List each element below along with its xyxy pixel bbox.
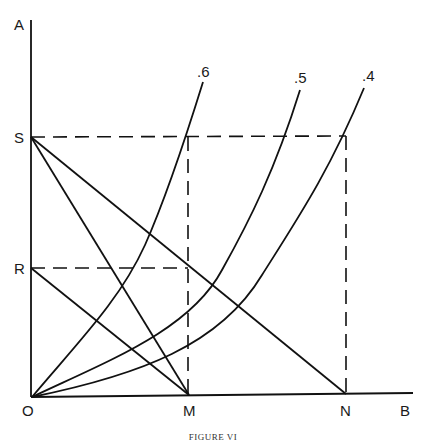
point-label-r: R (14, 260, 25, 277)
point-label-m: M (183, 402, 196, 419)
point-label-n: N (340, 402, 351, 419)
line-r-m (31, 268, 189, 395)
origin-label-o: O (22, 402, 34, 419)
figure-diagram: A S R O M N B .6 .5 .4 FIGURE VI (0, 0, 426, 448)
curve-4 (32, 88, 364, 397)
figure-caption: FIGURE VI (189, 432, 238, 442)
axis-label-b: B (400, 402, 410, 419)
line-s-n (31, 137, 346, 394)
curve-label-5: .5 (294, 69, 307, 86)
dashed-line-s (31, 136, 346, 137)
curve-label-6: .6 (197, 63, 210, 80)
x-axis (31, 393, 413, 397)
axis-label-a: A (14, 16, 24, 33)
curve-6 (32, 82, 203, 397)
point-label-s: S (14, 129, 24, 146)
curve-label-4: .4 (362, 67, 375, 84)
